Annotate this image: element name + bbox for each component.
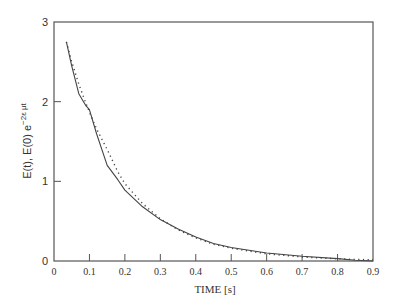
x-tick-label: 0.7 — [296, 266, 309, 277]
x-tick-label: 0.9 — [367, 266, 380, 277]
x-tick-label: 0.8 — [331, 266, 344, 277]
data-series — [66, 42, 373, 261]
decay-chart: 00.10.20.30.40.50.60.70.80.9 0123 TIME [… — [0, 0, 393, 306]
energy-line — [66, 42, 373, 261]
x-tick-label: 0.2 — [119, 266, 132, 277]
exponential-fit-line — [66, 42, 373, 260]
x-axis-label: TIME [s] — [194, 283, 235, 295]
x-tick-label: 0.5 — [225, 266, 238, 277]
x-tick-label: 0 — [52, 266, 57, 277]
x-tick-label: 0.3 — [154, 266, 167, 277]
x-axis-ticks: 00.10.20.30.40.50.60.70.80.9 — [52, 254, 380, 277]
x-tick-label: 0.1 — [83, 266, 96, 277]
y-axis-label-main: E(t), E(0) e — [21, 125, 33, 179]
x-tick-label: 0.6 — [260, 266, 273, 277]
y-tick-label: 1 — [42, 175, 48, 187]
y-tick-label: 2 — [42, 96, 48, 108]
plot-frame — [54, 22, 373, 261]
y-axis-label-exponent: −2ε μt — [19, 102, 28, 125]
y-tick-label: 3 — [42, 16, 48, 28]
y-axis-ticks: 0123 — [42, 16, 61, 267]
x-tick-label: 0.4 — [190, 266, 203, 277]
y-tick-label: 0 — [42, 255, 48, 267]
y-axis-label: E(t), E(0) e−2ε μt — [19, 102, 33, 178]
